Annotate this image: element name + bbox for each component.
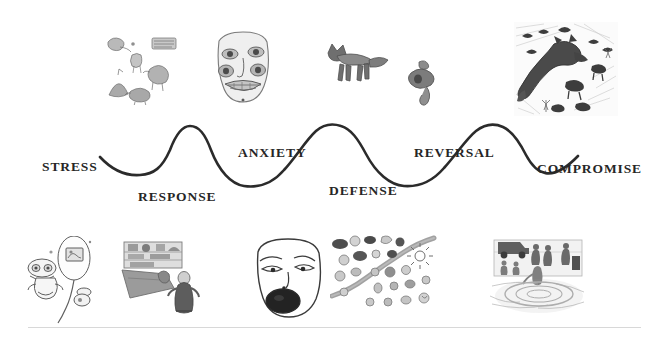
illustration-balloon-figure [26, 236, 106, 326]
stage-label-stress: STRESS [42, 160, 98, 174]
wave-path [100, 124, 578, 186]
illustration-multi-eyed-face [212, 28, 274, 106]
illustration-collage-path [330, 234, 440, 316]
illustration-shop-scene [118, 240, 200, 316]
illustration-screaming-face [250, 236, 326, 318]
illustration-reflection-scene [486, 238, 592, 316]
stage-label-compromise: COMPROMISE [537, 162, 642, 176]
stage-label-anxiety: ANXIETY [238, 146, 307, 160]
stage-label-defense: DEFENSE [329, 184, 398, 198]
illustration-scattered-sketches [104, 33, 188, 105]
stage-label-reversal: REVERSAL [414, 146, 495, 160]
illustration-curled-creature [407, 60, 441, 106]
stress-response-figure: STRESS RESPONSE ANXIETY DEFENSE REVERSAL… [0, 0, 669, 344]
stage-label-response: RESPONSE [138, 190, 216, 204]
illustration-fox-figure [325, 42, 391, 88]
bottom-divider-rule [28, 327, 641, 328]
illustration-predator-scene [514, 22, 618, 116]
